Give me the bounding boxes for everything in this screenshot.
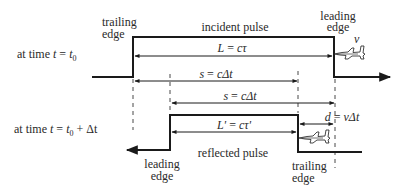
dim-s2-rhs: cΔt	[241, 89, 257, 103]
velocity-label: v	[354, 32, 360, 46]
dimension-s-2: s = cΔt	[172, 89, 334, 103]
svg-text:s = cΔt: s = cΔt	[199, 67, 233, 81]
dim-d-lhs: d	[325, 110, 332, 124]
dim-s1-rhs: cΔt	[217, 67, 233, 81]
dim-s2-lhs: s	[223, 89, 228, 103]
time-label-incident: at time t = t0	[17, 47, 76, 63]
aircraft-icon	[299, 130, 330, 143]
dim-s1-lhs: s	[199, 67, 204, 81]
dimension-d: d = vΔt	[300, 110, 360, 124]
reflected-pulse-label: reflected pulse	[198, 146, 268, 160]
dim-L-lhs: L	[216, 41, 224, 55]
svg-text:s = cΔt: s = cΔt	[223, 89, 257, 103]
reflected-leading-edge-label-2: edge	[151, 169, 174, 183]
dimension-s-1: s = cΔt	[135, 67, 297, 81]
time-label-reflected: at time t = t0 + Δt	[14, 122, 98, 138]
dim-Lprime-rhs: cτ'	[239, 118, 252, 132]
dim-Lprime-lhs: L'	[216, 118, 227, 132]
incident-leading-edge-label-2: edge	[327, 20, 350, 34]
dimension-L-prime: L' = cτ'	[172, 118, 296, 132]
dimension-L: L = cτ	[135, 41, 332, 56]
svg-text:L = cτ: L = cτ	[216, 41, 247, 55]
svg-text:d = vΔt: d = vΔt	[325, 110, 360, 124]
aircraft-icon	[334, 46, 365, 59]
dim-L-rhs: cτ	[237, 41, 247, 55]
pulse-reflection-diagram: L = cτ s = cΔt s = cΔt	[0, 0, 405, 193]
incident-pulse-label: incident pulse	[202, 20, 269, 34]
svg-text:L' = cτ': L' = cτ'	[216, 118, 252, 132]
incident-trailing-edge-label-2: edge	[102, 27, 125, 41]
reflected-trailing-edge-label-2: edge	[292, 171, 315, 185]
dim-d-rhs: vΔt	[344, 110, 360, 124]
